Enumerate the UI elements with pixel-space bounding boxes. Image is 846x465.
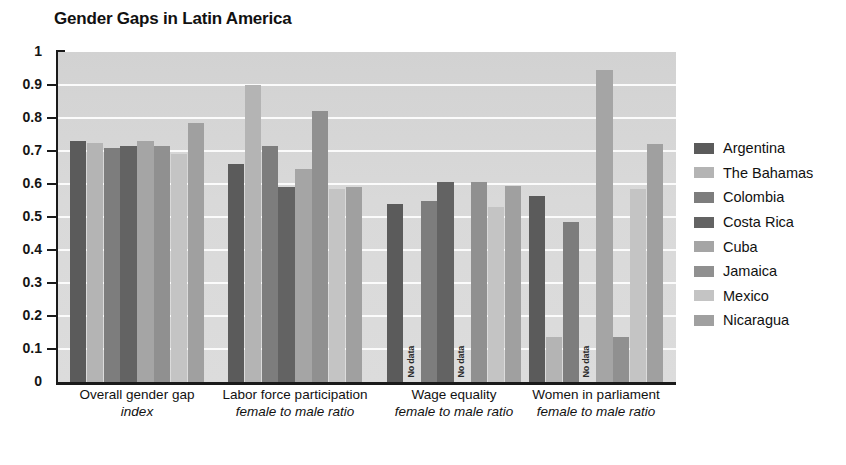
bar — [278, 187, 294, 382]
legend-label: Argentina — [723, 140, 785, 156]
x-axis-line — [56, 382, 676, 385]
bar — [613, 337, 629, 382]
y-axis-tick — [47, 150, 56, 152]
y-axis-tick — [47, 117, 56, 119]
legend-item[interactable]: Cuba — [694, 234, 813, 259]
legend-label: The Bahamas — [723, 165, 813, 181]
y-axis-tick — [47, 315, 56, 317]
bar — [529, 196, 545, 382]
y-axis-tick — [47, 282, 56, 284]
legend-item[interactable]: Costa Rica — [694, 210, 813, 235]
y-axis-tick — [47, 249, 56, 251]
legend-swatch-icon — [694, 266, 714, 277]
legend-item[interactable]: Nicaragua — [694, 308, 813, 333]
bar — [188, 123, 204, 382]
x-axis-group-label: Women in parliamentfemale to male ratio — [496, 387, 696, 421]
y-axis-label: 0.4 — [2, 241, 42, 257]
bar — [437, 182, 453, 382]
bar — [120, 146, 136, 382]
bar — [295, 169, 311, 382]
legend-item[interactable]: Mexico — [694, 284, 813, 309]
y-axis-tick — [47, 84, 56, 86]
legend-label: Cuba — [723, 239, 758, 255]
y-axis-label: 0.7 — [2, 142, 42, 158]
legend-label: Costa Rica — [723, 214, 794, 230]
legend-item[interactable]: Argentina — [694, 136, 813, 161]
bar — [471, 182, 487, 382]
bar — [563, 222, 579, 382]
legend-swatch-icon — [694, 290, 714, 301]
no-data-label: No data — [581, 346, 591, 378]
y-axis-label: 0.3 — [2, 274, 42, 290]
y-axis-label: 0.8 — [2, 109, 42, 125]
no-data-label: No data — [406, 346, 416, 378]
bar — [154, 146, 170, 382]
bar — [630, 189, 646, 382]
y-axis-tick — [47, 348, 56, 350]
no-data-label: No data — [456, 346, 466, 378]
legend-swatch-icon — [694, 217, 714, 228]
bar — [171, 154, 187, 382]
legend-item[interactable]: Jamaica — [694, 259, 813, 284]
chart-title: Gender Gaps in Latin America — [54, 9, 292, 29]
y-axis-label: 0.5 — [2, 208, 42, 224]
legend-label: Jamaica — [723, 263, 777, 279]
legend-swatch-icon — [694, 241, 714, 252]
chart-legend: ArgentinaThe BahamasColombiaCosta RicaCu… — [694, 136, 813, 333]
bar — [346, 187, 362, 382]
legend-label: Nicaragua — [723, 312, 789, 328]
chart-root: Gender Gaps in Latin America 10.90.80.70… — [0, 0, 846, 465]
bar — [137, 141, 153, 382]
bar — [70, 141, 86, 382]
y-axis-label: 0 — [2, 373, 42, 389]
bar — [647, 144, 663, 382]
bars-layer: No dataNo dataNo data — [56, 52, 674, 382]
y-axis-label: 0.2 — [2, 307, 42, 323]
bar — [312, 111, 328, 382]
y-axis-tick — [47, 216, 56, 218]
legend-label: Colombia — [723, 189, 784, 205]
y-axis-label: 0.9 — [2, 76, 42, 92]
bar — [488, 207, 504, 382]
x-axis-group-label-line1: Women in parliament — [496, 387, 696, 404]
legend-swatch-icon — [694, 143, 714, 154]
bar — [104, 148, 120, 382]
bar — [329, 189, 345, 382]
bar — [262, 146, 278, 382]
bar — [87, 143, 103, 382]
bar — [546, 337, 562, 382]
legend-item[interactable]: Colombia — [694, 185, 813, 210]
x-axis-group-label-line2: female to male ratio — [496, 404, 696, 421]
legend-label: Mexico — [723, 288, 769, 304]
bar — [421, 201, 437, 383]
bar — [596, 70, 612, 382]
legend-swatch-icon — [694, 192, 714, 203]
bar — [228, 164, 244, 382]
legend-swatch-icon — [694, 315, 714, 326]
legend-swatch-icon — [694, 167, 714, 178]
y-axis-label: 1 — [2, 43, 42, 59]
bar — [387, 204, 403, 382]
y-axis-tick — [47, 183, 56, 185]
bar — [245, 85, 261, 382]
y-axis-label: 0.6 — [2, 175, 42, 191]
bar — [505, 186, 521, 382]
y-axis-label: 0.1 — [2, 340, 42, 356]
legend-item[interactable]: The Bahamas — [694, 161, 813, 186]
